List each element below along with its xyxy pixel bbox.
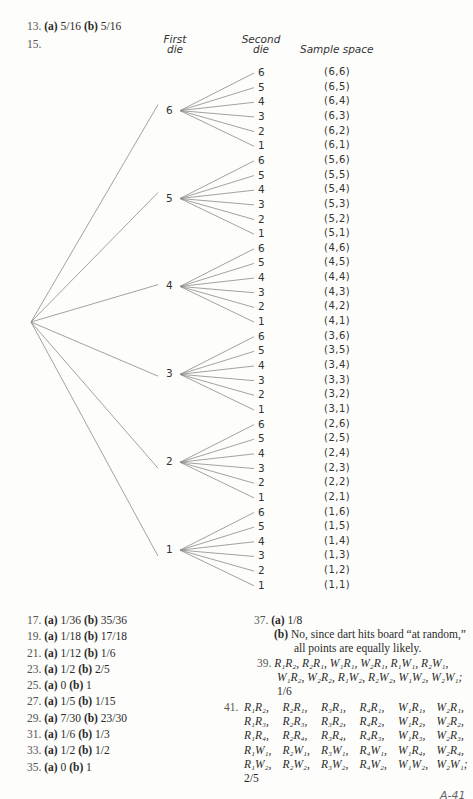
second-die-node: 1 [258, 227, 265, 239]
second-die-node: 3 [258, 198, 265, 210]
second-die-node: 5 [258, 256, 265, 268]
second-die-node: 4 [258, 183, 265, 195]
problem-number: 41. [224, 700, 238, 714]
page-number: A-41 [440, 789, 466, 799]
second-die-node: 4 [258, 447, 265, 459]
first-die-node: 3 [166, 367, 173, 379]
tree-diagram [0, 0, 473, 620]
sample-space-outcome: (3,1) [324, 403, 350, 414]
outcome-cell: R₃R₂, [321, 714, 346, 728]
problem-number: 17. [27, 614, 41, 626]
part-b-label: (b) [274, 628, 288, 640]
second-die-node: 2 [258, 125, 265, 137]
second-die-node: 5 [258, 169, 265, 181]
part-a-answer: 1/36 [61, 614, 81, 626]
part-a-answer: 0 [61, 679, 67, 691]
problem-number: 37. [254, 614, 268, 626]
second-die-node: 1 [258, 403, 265, 415]
part-b-answer: 23/30 [101, 712, 127, 724]
sample-space-outcome: (6,1) [324, 139, 350, 150]
part-b-label: (b) [78, 744, 92, 756]
part-b-label: (b) [84, 647, 98, 659]
outcome-cell: R₁R₃, [244, 714, 269, 728]
outcome-cell: R₂W₁, [283, 743, 310, 757]
sample-space-outcome: (6,4) [324, 95, 350, 106]
answer-row: 33. (a) 1/2 (b) 1/2 [27, 743, 127, 759]
first-die-node: 6 [166, 104, 173, 116]
part-b-answer: 1 [86, 761, 92, 773]
part-a-label: (a) [44, 679, 57, 691]
sample-space-outcome: (4,6) [324, 242, 350, 253]
sample-space-outcome: (1,2) [324, 564, 350, 575]
part-b-label: (b) [78, 663, 92, 675]
part-b-label: (b) [78, 695, 92, 707]
part-b-answer: 35/36 [101, 614, 127, 626]
sample-space-outcome: (6,6) [324, 66, 350, 77]
sample-space-outcome: (2,3) [324, 462, 350, 473]
sample-space-outcome: (4,5) [324, 256, 350, 267]
answer-row: 21. (a) 1/12 (b) 1/6 [27, 646, 127, 662]
part-b-label: (b) [69, 761, 83, 773]
part-a-answer: 1/12 [61, 647, 81, 659]
first-die-node: 5 [166, 192, 173, 204]
second-die-node: 4 [258, 271, 265, 283]
part-b-label: (b) [69, 679, 83, 691]
outcome-cell: W₁R₂, [398, 714, 425, 728]
sample-space-outcome: (6,2) [324, 125, 350, 136]
part-b-label: (b) [84, 712, 98, 724]
problem-number: 23. [27, 663, 41, 675]
problem-39: 39. R₁R₂, R₂R₁, W₁R₁, W₂R₁, R₁W₁, R₂W₁, … [257, 656, 462, 698]
sample-space-outcome: (1,1) [324, 579, 350, 590]
second-die-node: 6 [258, 506, 265, 518]
answer-row: 23. (a) 1/2 (b) 2/5 [27, 662, 127, 678]
outcome-cell: R₄W₂, [360, 757, 387, 771]
part-a-label: (a) [44, 614, 57, 626]
problem-number: 31. [27, 728, 41, 740]
sample-space-outcome: (5,3) [324, 198, 350, 209]
part-b-label: (b) [84, 614, 98, 626]
second-die-node: 3 [258, 462, 265, 474]
outcome-cell: W₁R₃, [398, 728, 425, 742]
outcome-cell: W₂R₄, [437, 743, 464, 757]
problem-number: 19. [27, 630, 41, 642]
sample-space-outcome: (2,1) [324, 491, 350, 502]
part-b-answer: 1/2 [95, 744, 110, 756]
part-a-answer: 1/18 [61, 630, 81, 642]
outcome-cell: R₁R₂, [244, 700, 269, 714]
sample-space-outcome: (3,5) [324, 344, 350, 355]
part-b-answer: 2/5 [95, 663, 110, 675]
second-die-node: 1 [258, 315, 265, 327]
part-a-label: (a) [44, 761, 57, 773]
second-die-node: 5 [258, 81, 265, 93]
second-die-node: 3 [258, 549, 265, 561]
outcome-cell: W₂R₂, [437, 714, 464, 728]
part-b-answer: 1/3 [95, 728, 110, 740]
answer-row: 29. (a) 7/30 (b) 23/30 [27, 711, 127, 727]
sample-space-outcome: (1,4) [324, 535, 350, 546]
sample-space-outcome: (3,3) [324, 374, 350, 385]
problem-number: 33. [27, 744, 41, 756]
outcome-cell: W₂W₁; [437, 757, 468, 771]
second-die-node: 4 [258, 95, 265, 107]
answer-row: 17. (a) 1/36 (b) 35/36 [27, 613, 127, 629]
outcome-cell: R₂R₁, [283, 700, 308, 714]
outcome-cell: R₄R₃, [360, 728, 385, 742]
sample-space-outcome: (5,1) [324, 227, 350, 238]
sample-space-outcome: (2,6) [324, 418, 350, 429]
answer-row: 27. (a) 1/5 (b) 1/15 [27, 694, 127, 710]
part-a-label: (a) [44, 630, 57, 642]
second-die-node: 2 [258, 213, 265, 225]
problem-number: 25. [27, 679, 41, 691]
outcome-cell: R₃W₂, [321, 757, 348, 771]
part-b-answer: 1 [86, 679, 92, 691]
sample-space-outcome: (4,4) [324, 271, 350, 282]
part-a-answer: 1/2 [61, 744, 76, 756]
sample-space-outcome: (2,4) [324, 447, 350, 458]
outcome-cell: R₄R₁, [360, 700, 385, 714]
outcome-cell: R₂R₄, [283, 728, 308, 742]
part-a-label: (a) [44, 744, 57, 756]
sample-space-outcome: (3,6) [324, 330, 350, 341]
first-die-node: 4 [166, 279, 173, 291]
outcome-cell: R₁W₂, [244, 757, 271, 771]
outcome-cell: R₃W₁, [321, 743, 348, 757]
